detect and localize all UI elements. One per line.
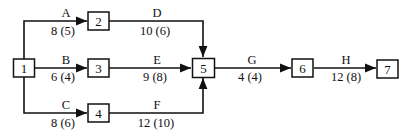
node-6: 6 [292,59,313,77]
node-7: 7 [377,60,398,78]
edge-D-duration: 10 (6) [140,24,170,38]
node-2-label: 2 [95,14,102,29]
node-6-label: 6 [299,61,306,76]
edge-A-name: A [61,6,70,20]
edge-H-duration: 12 (8) [331,70,361,84]
edge-B-duration: 6 (4) [51,70,75,84]
edge-F-duration: 12 (10) [138,116,174,130]
node-7-label: 7 [384,62,391,77]
edge-C-duration: 8 (6) [51,116,75,130]
edge-F-name: F [154,98,161,112]
edge-H-name: H [341,53,350,67]
edge-A-duration: 8 (5) [51,24,75,38]
network-diagram: A 8 (5) B 6 (4) C 8 (6) D 10 (6) E 9 (8)… [0,0,409,137]
edge-E-duration: 9 (8) [143,70,167,84]
edge-B-name: B [62,53,70,67]
edge-C-name: C [62,98,70,112]
edge-E-name: E [153,53,161,67]
edge-G-name: G [247,53,256,67]
node-5-label: 5 [200,61,207,76]
node-3: 3 [88,59,109,77]
edge-D-name: D [152,6,161,20]
node-4: 4 [88,104,109,122]
node-2: 2 [88,12,109,30]
node-4-label: 4 [95,106,102,121]
edge-G-duration: 4 (4) [238,70,262,84]
node-5: 5 [193,59,215,78]
node-3-label: 3 [95,61,102,76]
node-1: 1 [14,59,35,77]
node-1-label: 1 [21,61,28,76]
